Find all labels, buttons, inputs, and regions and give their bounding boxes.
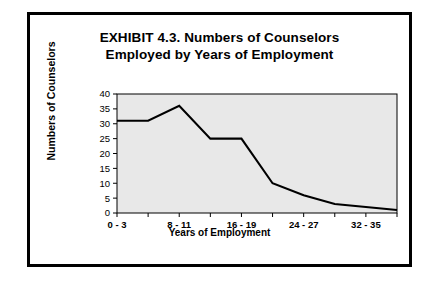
chart-frame: EXHIBIT 4.3. Numbers of Counselors Emplo… bbox=[27, 12, 412, 267]
y-axis-title: Numbers of Counselors bbox=[45, 36, 57, 166]
line-chart-svg: 05101520253035400 - 38 - 1116 - 1924 - 2… bbox=[71, 88, 401, 240]
y-axis-tick-label: 15 bbox=[99, 163, 110, 174]
y-axis-tick-label: 10 bbox=[99, 178, 110, 189]
y-axis-tick-label: 0 bbox=[105, 207, 110, 218]
chart-title-line1: EXHIBIT 4.3. Numbers of Counselors bbox=[100, 30, 340, 45]
plot-area: 05101520253035400 - 38 - 1116 - 1924 - 2… bbox=[71, 88, 401, 240]
y-axis-tick-label: 25 bbox=[99, 133, 110, 144]
chart-title-line2: Employed by Years of Employment bbox=[30, 46, 409, 63]
y-axis-tick-label: 30 bbox=[99, 118, 110, 129]
chart-title: EXHIBIT 4.3. Numbers of Counselors Emplo… bbox=[30, 29, 409, 63]
y-axis-tick-label: 35 bbox=[99, 103, 110, 114]
x-axis-title: Years of Employment bbox=[30, 227, 409, 238]
y-axis-tick-label: 20 bbox=[99, 148, 110, 159]
y-axis-tick-label: 40 bbox=[99, 88, 110, 99]
plot-background bbox=[117, 94, 397, 213]
y-axis-tick-label: 5 bbox=[105, 193, 110, 204]
